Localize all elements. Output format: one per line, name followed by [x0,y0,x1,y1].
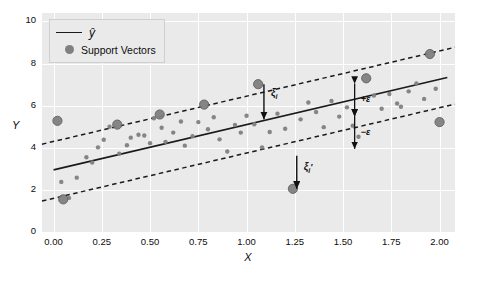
data-point [206,127,210,131]
x-tick-label: 0.00 [44,236,63,247]
data-point [244,114,248,118]
data-point [107,125,111,129]
y-tick-text: 2 [31,183,36,194]
eps-minus-label: −ε [361,127,371,137]
data-point [298,117,302,121]
y-tick-text: 4 [31,141,36,152]
data-point [117,151,121,155]
y-tick-text: 0 [31,225,36,236]
data-point [322,125,326,129]
data-point [345,105,349,109]
slack-upper-label: ξi [271,87,277,100]
data-point [275,111,279,115]
data-point [379,107,383,111]
epsilon-tube-lower-line [42,104,455,201]
x-tick-label: 0.75 [189,236,208,247]
data-point [183,143,187,147]
data-point [414,81,418,85]
x-tick-label: 1.00 [237,236,256,247]
data-point [190,134,194,138]
slack-lower-label: ξi′ [304,161,313,174]
x-tick-label: 1.25 [286,236,305,247]
support-vector-point [254,80,263,89]
support-vector-point [362,74,371,83]
x-axis-label: X [244,251,251,263]
support-vector-point [200,100,209,109]
data-point [395,101,399,105]
data-point [212,115,216,119]
data-point [252,122,256,126]
data-point [96,145,100,149]
data-point [399,105,403,109]
x-tick-label: 2.00 [430,236,449,247]
data-point [372,93,376,97]
support-vector-point [113,120,122,129]
data-point [422,97,426,101]
data-point [306,100,310,104]
y-tick-text: 10 [25,14,36,25]
data-point [283,127,287,131]
data-point [314,110,318,114]
x-tick-label: 0.25 [93,236,112,247]
legend: ŷ Support Vectors [49,19,165,63]
support-vector-point [155,110,164,119]
support-vector-point [435,117,444,126]
x-tick-label: 1.50 [334,236,353,247]
legend-label-yhat: ŷ [89,26,95,40]
gridline-horizontal [42,232,455,233]
data-point [84,155,88,159]
support-vector-point [425,49,434,58]
support-vector-point [53,116,62,125]
eps-plus-label: +ε [361,94,371,104]
data-point [163,140,167,144]
data-point [59,180,63,184]
legend-item-yhat: ŷ [56,24,156,41]
data-point [159,126,163,130]
data-point [148,141,152,145]
data-point [217,137,221,141]
data-point [171,130,175,134]
legend-dot-swatch [65,45,74,54]
svr-chart-figure: ŷ Support Vectors X Y 0.000.250.500.751.… [0,0,477,297]
legend-label-support-vectors: Support Vectors [81,44,156,56]
data-point [337,114,341,118]
data-point [90,160,94,164]
data-point [196,120,200,124]
data-point [136,133,140,137]
x-tick-label: 0.50 [141,236,160,247]
y-tick-text: 8 [31,57,36,68]
data-point [268,130,272,134]
data-point [142,133,146,137]
y-axis-label: Y [12,119,19,131]
data-point [233,123,237,127]
support-vector-point [59,195,68,204]
data-point [239,130,243,134]
data-point [434,87,438,91]
data-point [129,135,133,139]
data-point [406,89,410,93]
legend-item-support-vectors: Support Vectors [56,41,156,58]
data-point [75,175,79,179]
data-point [260,145,264,149]
legend-line-swatch [56,32,82,33]
data-point [329,99,333,103]
x-tick-label: 1.75 [382,236,401,247]
data-point [102,138,106,142]
data-point [225,149,229,153]
data-point [179,119,183,123]
data-point [125,143,129,147]
y-tick-text: 6 [31,99,36,110]
data-point [387,92,391,96]
